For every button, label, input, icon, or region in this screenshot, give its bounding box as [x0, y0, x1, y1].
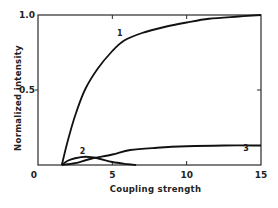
curve-3 [62, 145, 261, 165]
x-tick-label: 5 [109, 170, 115, 180]
plot-frame [38, 15, 261, 165]
curve-label-3: 3 [243, 144, 249, 153]
x-tick-label: 15 [255, 170, 268, 180]
y-tick-label: 1.0 [19, 10, 35, 20]
curve-1 [62, 15, 261, 165]
y-axis-title: Normalized intensity [13, 45, 23, 151]
axes [35, 15, 261, 165]
curve-label-1: 1 [117, 29, 123, 38]
x-axis-title: Coupling strength [110, 184, 202, 194]
x-tick-label: 0 [31, 170, 37, 180]
chart: 0510150.51.0123 Coupling strength Normal… [0, 0, 278, 208]
curve-label-2: 2 [80, 147, 86, 156]
x-tick-label: 10 [180, 170, 193, 180]
curves [62, 15, 261, 165]
labels: 0510150.51.0123 [19, 10, 267, 180]
